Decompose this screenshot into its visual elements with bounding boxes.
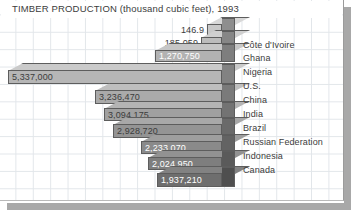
bar-nigeria[interactable]: 1,270,750 [155,50,222,62]
category-label-canada: Canada [243,165,275,175]
bar-value-label: 5,337,000 [12,72,53,82]
bar-side-face [222,44,235,62]
category-label-russian-federation: Russian Federation [243,137,323,147]
category-label-india: India [243,109,263,119]
bar-value-label: 2,928,720 [117,126,158,136]
category-label-c-te-d-ivoire: Côte d'Ivoire [243,40,295,50]
category-label-indonesia: Indonesia [243,151,283,161]
category-label-china: China [243,95,267,105]
bar-series: 146.9185,0591,270,7505,337,0003,236,4703… [0,0,351,212]
bar-value-label: 146.9 [181,25,204,35]
bar-canada[interactable]: 1,937,210 [157,173,222,187]
bar-value-label: 1,270,750 [159,51,200,61]
category-label-brazil: Brazil [243,123,266,133]
bar-u-s[interactable]: 5,337,000 [8,70,222,84]
bar-side-face [222,64,235,84]
bar-value-label: 1,937,210 [161,175,202,185]
timber-production-chart: TIMBER PRODUCTION (thousand cubic feet),… [0,0,351,212]
category-label-nigeria: Nigeria [243,67,272,77]
category-label-ghana: Ghana [243,53,271,63]
bar-side-face [222,167,235,187]
category-label-u-s: U.S. [243,81,261,91]
